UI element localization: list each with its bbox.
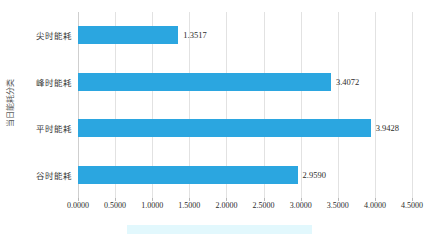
bar-pingshi[interactable] — [78, 119, 371, 137]
bar-chart: 当日能耗分类 尖时能耗 峰时能耗 平时能耗 谷时能耗 1.3517 3.4072… — [0, 0, 433, 234]
bar-jianshi[interactable] — [78, 26, 178, 44]
x-axis-tick-label: 0.5000 — [104, 201, 126, 210]
category-label-fengshi: 峰时能耗 — [18, 59, 78, 106]
bar-value-jianshi: 1.3517 — [183, 30, 206, 40]
x-axis-tick-label: 4.5000 — [401, 201, 423, 210]
bar-fengshi[interactable] — [78, 73, 331, 91]
table-row: 3.4072 — [78, 59, 412, 106]
x-axis-ticks: 0.00000.50001.00001.50002.00002.50003.00… — [78, 198, 412, 212]
category-label-gushi: 谷时能耗 — [18, 152, 78, 199]
category-label-jianshi: 尖时能耗 — [18, 12, 78, 59]
legend-band — [127, 225, 312, 234]
table-row: 3.9428 — [78, 105, 412, 152]
x-axis-tick-label: 2.5000 — [253, 201, 275, 210]
category-axis-labels: 尖时能耗 峰时能耗 平时能耗 谷时能耗 — [18, 12, 78, 198]
category-label-pingshi: 平时能耗 — [18, 105, 78, 152]
y-axis-title-label: 当日能耗分类 — [4, 79, 15, 127]
x-axis-tick-label: 1.5000 — [178, 201, 200, 210]
x-axis-tick-label: 0.0000 — [67, 201, 89, 210]
bar-gushi[interactable] — [78, 166, 298, 184]
gridline — [412, 12, 413, 198]
x-axis-tick-label: 3.5000 — [327, 201, 349, 210]
y-axis-title: 当日能耗分类 — [0, 0, 18, 205]
bars-group: 1.3517 3.4072 3.9428 2.9590 — [78, 12, 412, 198]
plot-area: 1.3517 3.4072 3.9428 2.9590 — [78, 12, 412, 198]
x-axis-tick-label: 3.0000 — [290, 201, 312, 210]
table-row: 1.3517 — [78, 12, 412, 59]
bar-value-pingshi: 3.9428 — [376, 123, 399, 133]
x-axis-tick-label: 2.0000 — [215, 201, 237, 210]
table-row: 2.9590 — [78, 152, 412, 199]
x-axis-tick-label: 1.0000 — [141, 201, 163, 210]
bar-value-fengshi: 3.4072 — [336, 77, 359, 87]
bar-value-gushi: 2.9590 — [303, 170, 326, 180]
x-axis-tick-label: 4.0000 — [364, 201, 386, 210]
